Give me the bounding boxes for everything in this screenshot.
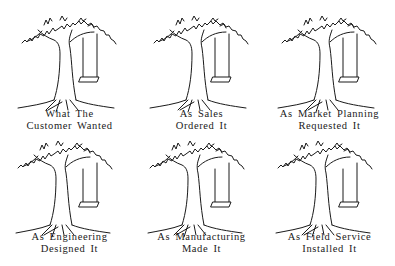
panel-caption: What The Customer Wanted: [4, 108, 135, 132]
caption-line-1: As Field Service: [264, 231, 395, 243]
caption-line-1: As Sales: [136, 108, 267, 120]
caption-line-2: Made It: [136, 243, 267, 255]
panel-caption: As Field Service Installed It: [264, 231, 395, 255]
caption-line-1: As Market Planning: [264, 108, 395, 120]
tree-swing-cartoon-grid: What The Customer Wanted As Sales Ordere…: [0, 0, 395, 266]
caption-line-1: As Manufacturing: [136, 231, 267, 243]
panel-engineering-designed: As Engineering Designed It: [4, 133, 135, 266]
caption-line-2: Requested It: [264, 120, 395, 132]
caption-line-2: Installed It: [264, 243, 395, 255]
panel-sales-ordered: As Sales Ordered It: [136, 0, 267, 133]
panel-caption: As Manufacturing Made It: [136, 231, 267, 255]
caption-line-1: As Engineering: [4, 231, 135, 243]
panel-market-planning-requested: As Market Planning Requested It: [264, 0, 395, 133]
caption-line-1: What The: [4, 108, 135, 120]
caption-line-2: Ordered It: [136, 120, 267, 132]
panel-customer-wanted: What The Customer Wanted: [4, 0, 135, 133]
panel-caption: As Market Planning Requested It: [264, 108, 395, 132]
panel-manufacturing-made: As Manufacturing Made It: [136, 133, 267, 266]
panel-field-service-installed: As Field Service Installed It: [264, 133, 395, 266]
caption-line-2: Designed It: [4, 243, 135, 255]
panel-caption: As Engineering Designed It: [4, 231, 135, 255]
panel-caption: As Sales Ordered It: [136, 108, 267, 132]
caption-line-2: Customer Wanted: [4, 120, 135, 132]
